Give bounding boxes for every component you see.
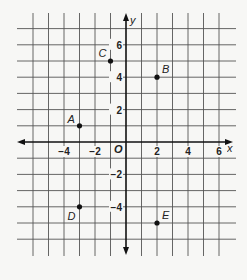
point-marker-icon bbox=[77, 204, 82, 209]
origin-label: O bbox=[114, 143, 123, 155]
point-label: D bbox=[68, 210, 76, 222]
point-label: C bbox=[99, 47, 107, 59]
y-tick-label: 4 bbox=[116, 72, 122, 83]
point-label: B bbox=[162, 63, 169, 75]
point-marker-icon bbox=[154, 220, 159, 225]
point-marker-icon bbox=[77, 123, 82, 128]
x-tick-label: −4 bbox=[58, 146, 70, 157]
y-axis-label: y bbox=[129, 14, 137, 26]
y-tick-label: 2 bbox=[116, 105, 122, 116]
x-tick-label: 6 bbox=[216, 146, 222, 157]
x-tick-label: 4 bbox=[185, 146, 191, 157]
x-axis-left-arrow-icon bbox=[17, 139, 25, 145]
point-label: A bbox=[67, 113, 75, 125]
y-axis-down-arrow-icon bbox=[123, 247, 129, 255]
coordinate-plane: x y O −4−2246642−2−4 ABCDE bbox=[0, 0, 247, 280]
point-marker-icon bbox=[154, 75, 159, 80]
y-axis-up-arrow-icon bbox=[123, 13, 129, 21]
axes: x y O bbox=[17, 13, 233, 255]
y-tick-label: −2 bbox=[111, 169, 123, 180]
x-tick-label: −2 bbox=[89, 146, 101, 157]
x-axis-label: x bbox=[226, 142, 233, 154]
y-tick-label: 6 bbox=[116, 40, 122, 51]
y-tick-label: −4 bbox=[111, 202, 123, 213]
point-marker-icon bbox=[108, 58, 113, 63]
point-label: E bbox=[162, 209, 170, 221]
x-tick-label: 2 bbox=[154, 146, 160, 157]
